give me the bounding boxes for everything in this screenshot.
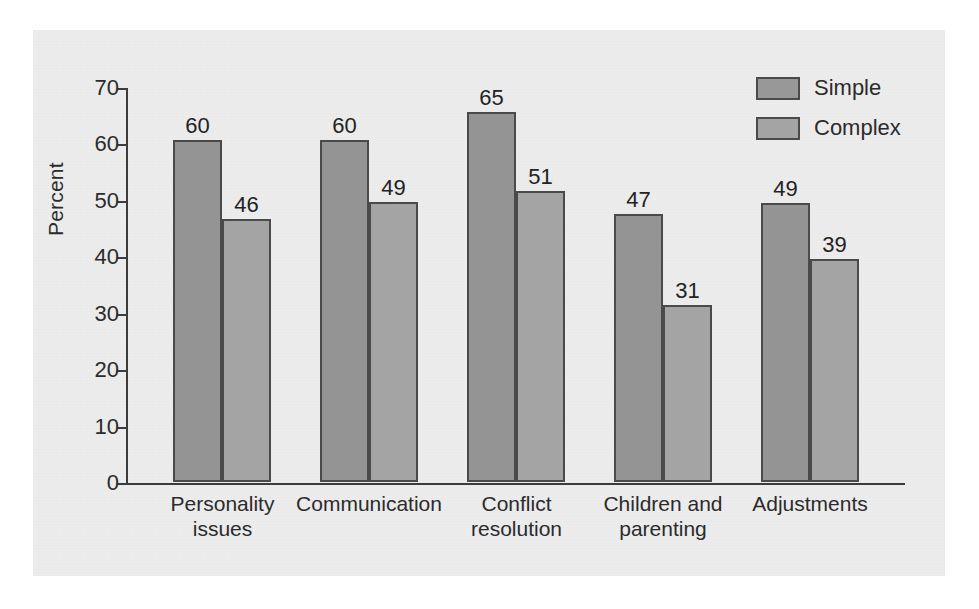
- category-label-adjustments: Adjustments: [730, 492, 890, 517]
- bar-value-complex-adjustments: 39: [822, 234, 846, 256]
- bar-simple-conflict-resolution[interactable]: 65: [467, 112, 516, 482]
- legend-label-complex: Complex: [814, 117, 901, 139]
- y-tick-label-60: 60: [95, 133, 119, 155]
- legend-label-simple: Simple: [814, 77, 881, 99]
- y-tick-label-30: 30: [95, 303, 119, 325]
- bar-value-simple-personality-issues: 60: [185, 115, 209, 137]
- bar-value-complex-personality-issues: 46: [234, 194, 258, 216]
- bar-simple-adjustments[interactable]: 49: [761, 203, 810, 482]
- category-label-children-and-parenting: Children and parenting: [583, 492, 743, 542]
- category-label-conflict-resolution: Conflict resolution: [439, 492, 594, 542]
- y-tick-label-70: 70: [95, 77, 119, 99]
- bar-complex-conflict-resolution[interactable]: 51: [516, 191, 565, 482]
- legend: Simple Complex: [756, 68, 901, 148]
- legend-swatch-simple-icon: [756, 77, 800, 100]
- bar-value-simple-children-and-parenting: 47: [626, 189, 650, 211]
- y-tick-label-10: 10: [95, 416, 119, 438]
- bar-chart-figure: Percent 0 10 20 30 40 50: [0, 0, 979, 609]
- y-axis-title: Percent: [44, 162, 68, 236]
- y-tick-label-50: 50: [95, 190, 119, 212]
- bar-value-complex-conflict-resolution: 51: [528, 166, 552, 188]
- bar-complex-children-and-parenting[interactable]: 31: [663, 305, 712, 482]
- bar-value-complex-communication: 49: [381, 177, 405, 199]
- bar-simple-personality-issues[interactable]: 60: [173, 140, 222, 482]
- legend-swatch-complex-icon: [756, 117, 800, 140]
- category-label-personality-issues: Personality issues: [145, 492, 300, 542]
- bar-complex-communication[interactable]: 49: [369, 202, 418, 482]
- bar-value-simple-communication: 60: [332, 115, 356, 137]
- bar-value-simple-conflict-resolution: 65: [479, 87, 503, 109]
- bar-complex-adjustments[interactable]: 39: [810, 259, 859, 482]
- y-axis-line: [126, 88, 128, 485]
- bar-complex-personality-issues[interactable]: 46: [222, 219, 271, 482]
- legend-item-simple[interactable]: Simple: [756, 68, 901, 108]
- x-axis-line: [126, 483, 905, 485]
- y-tick-label-0: 0: [107, 472, 119, 494]
- category-label-communication: Communication: [288, 492, 450, 517]
- bar-value-simple-adjustments: 49: [773, 178, 797, 200]
- y-tick-label-40: 40: [95, 246, 119, 268]
- y-tick-label-20: 20: [95, 359, 119, 381]
- bar-simple-children-and-parenting[interactable]: 47: [614, 214, 663, 482]
- bar-simple-communication[interactable]: 60: [320, 140, 369, 482]
- legend-item-complex[interactable]: Complex: [756, 108, 901, 148]
- bar-value-complex-children-and-parenting: 31: [675, 280, 699, 302]
